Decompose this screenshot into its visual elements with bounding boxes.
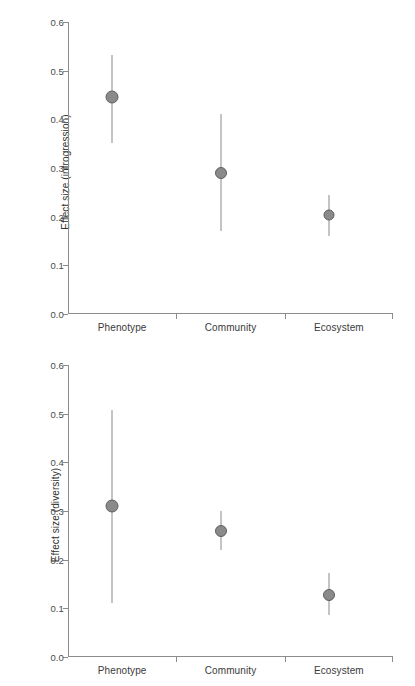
- y-axis-tick-label: 0.1: [50, 260, 64, 271]
- y-axis-tick-label: 0.3: [50, 163, 64, 174]
- x-axis-line: [68, 313, 393, 314]
- y-axis-tick-label: 0.2: [50, 554, 64, 565]
- y-axis-tick-label: 0.1: [50, 603, 64, 614]
- y-axis-tick-label: 0.5: [50, 65, 64, 76]
- data-point-marker: [323, 210, 334, 221]
- y-axis-tick-label: 0.4: [50, 457, 64, 468]
- y-axis-tick-label: 0.6: [50, 360, 64, 371]
- x-axis-category-label: Ecosystem: [314, 665, 364, 676]
- y-axis-tick-label: 0.2: [50, 211, 64, 222]
- x-axis-category-label: Phenotype: [98, 322, 147, 333]
- x-axis-category-label: Community: [205, 322, 256, 333]
- y-axis-tick-label: 0.4: [50, 114, 64, 125]
- x-axis-tick: [285, 314, 286, 319]
- y-axis-tick-label: 0.6: [50, 17, 64, 28]
- x-axis-line: [68, 656, 393, 657]
- plot-area-diversity: 0.00.10.20.30.40.50.6PhenotypeCommunityE…: [68, 365, 393, 657]
- y-axis-tick-label: 0.0: [50, 652, 64, 663]
- plot-area-introgression: 0.00.10.20.30.40.50.6PhenotypeCommunityE…: [68, 22, 393, 314]
- data-point-marker: [106, 500, 119, 513]
- y-axis-line: [68, 365, 69, 657]
- x-axis-category-label: Community: [205, 665, 256, 676]
- data-point-marker: [215, 167, 227, 179]
- y-axis-tick-label: 0.5: [50, 408, 64, 419]
- x-axis-tick: [392, 657, 393, 662]
- x-axis-tick: [176, 657, 177, 662]
- figure-root: Effect size (introgression) 0.00.10.20.3…: [0, 0, 415, 686]
- y-axis-tick-label: 0.0: [50, 309, 64, 320]
- data-point-marker: [215, 525, 227, 537]
- x-axis-tick: [392, 314, 393, 319]
- y-axis-tick-label: 0.3: [50, 506, 64, 517]
- x-axis-tick: [176, 314, 177, 319]
- x-axis-category-label: Ecosystem: [314, 322, 364, 333]
- y-axis-line: [68, 22, 69, 314]
- chart-panel-diversity: Effect size (diversity) 0.00.10.20.30.40…: [0, 343, 415, 686]
- data-point-marker: [106, 91, 119, 104]
- x-axis-category-label: Phenotype: [98, 665, 147, 676]
- x-axis-tick: [285, 657, 286, 662]
- data-point-marker: [323, 589, 335, 601]
- chart-panel-introgression: Effect size (introgression) 0.00.10.20.3…: [0, 0, 415, 343]
